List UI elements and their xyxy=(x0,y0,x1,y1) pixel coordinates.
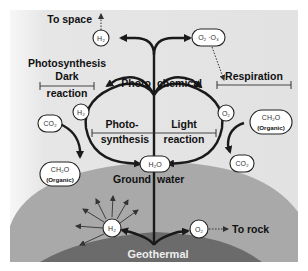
node-co2-left: CO₂ xyxy=(38,115,62,132)
node-o2-ground: O₂ xyxy=(190,220,208,238)
node-co2-right: CO₂ xyxy=(230,155,254,172)
label-light: Light xyxy=(171,118,197,130)
node-ch2o-right-sub: (Organic) xyxy=(257,124,285,131)
hydrogen-oxygen-cycle-diagram: H₂ O₂ ·O₃ H₂ CO₂ CH₂O (Organic) O₂ CH₂O … xyxy=(0,0,308,271)
node-o2-o3-top: O₂ ·O₃ xyxy=(192,29,225,46)
label-photo: Photo xyxy=(121,77,151,89)
node-h2-left-label: H₂ xyxy=(77,109,85,116)
node-o2-o3-label: O₂ ·O₃ xyxy=(198,34,219,41)
node-o2-ground-label: O₂ xyxy=(195,226,203,233)
node-ch2o-right-label: CH₂O xyxy=(262,114,281,121)
label-dark: Dark xyxy=(55,70,79,82)
node-o2-right: O₂ xyxy=(218,105,234,121)
label-photo-syn-1: Photo- xyxy=(105,118,139,130)
node-h2-ground: H₂ xyxy=(103,219,121,237)
node-ch2o-right: CH₂O (Organic) xyxy=(250,110,292,134)
node-co2-left-label: CO₂ xyxy=(43,120,57,127)
node-o2-right-label: O₂ xyxy=(222,110,230,117)
label-water: water xyxy=(156,173,184,185)
label-reaction-light: reaction xyxy=(164,133,205,145)
node-h2o-center-label: H₂O xyxy=(148,161,162,168)
label-geothermal: Geothermal xyxy=(127,248,188,260)
node-ch2o-left-sub: (Organic) xyxy=(46,176,74,183)
node-h2-left: H₂ xyxy=(73,104,89,120)
label-to-space: To space xyxy=(47,13,92,25)
label-ground: Ground xyxy=(113,173,151,185)
label-to-rock: To rock xyxy=(232,223,269,235)
node-h2o-center: H₂O xyxy=(140,156,170,172)
node-ch2o-left: CH₂O (Organic) xyxy=(40,162,80,186)
node-ch2o-left-label: CH₂O xyxy=(51,166,70,173)
node-h2-top-label: H₂ xyxy=(97,35,105,42)
node-h2-ground-label: H₂ xyxy=(108,225,116,232)
label-photosynthesis: Photosynthesis xyxy=(28,57,106,69)
label-chemical: chemical xyxy=(157,77,202,89)
label-photo-syn-2: synthesis xyxy=(101,133,150,145)
node-h2-top: H₂ xyxy=(93,30,109,46)
label-respiration: Respiration xyxy=(225,70,283,82)
node-co2-right-label: CO₂ xyxy=(235,160,249,167)
label-reaction-dark: reaction xyxy=(47,87,88,99)
